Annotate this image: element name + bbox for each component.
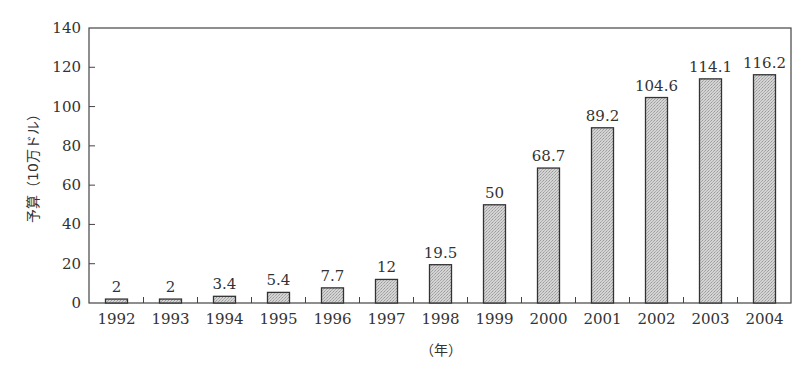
y-tick-label: 60	[62, 176, 81, 194]
bar-chart: 020406080100120140 199219931994199519961…	[0, 0, 808, 381]
bar-2000	[538, 168, 560, 303]
x-axis-title: （年）	[420, 342, 462, 358]
bar-2003	[700, 79, 722, 303]
x-tick-label: 1995	[259, 310, 297, 328]
bar-1994	[214, 296, 236, 303]
bar-2001	[592, 128, 614, 303]
x-tick-label: 1994	[205, 310, 243, 328]
y-tick-label: 20	[62, 255, 81, 273]
bar-value-label: 50	[485, 184, 504, 202]
bar-1997	[376, 279, 398, 303]
bar-1993	[160, 299, 182, 303]
x-tick-label: 2001	[583, 310, 621, 328]
plot-frame	[89, 28, 791, 303]
x-tick-label: 1993	[151, 310, 189, 328]
x-tick-label: 2004	[745, 310, 783, 328]
bars: 223.45.47.71219.55068.789.2104.6114.1116…	[106, 54, 786, 303]
y-tick-label: 140	[52, 19, 81, 37]
bar-1996	[322, 288, 344, 303]
bar-1999	[484, 205, 506, 303]
y-tick-label: 100	[52, 98, 81, 116]
bar-value-label: 2	[166, 278, 176, 296]
y-tick-label: 120	[52, 58, 81, 76]
bar-value-label: 89.2	[586, 107, 619, 125]
x-tick-label: 2002	[637, 310, 675, 328]
x-tick-label: 1997	[367, 310, 405, 328]
bar-value-label: 104.6	[635, 77, 678, 95]
x-tick-label: 2003	[691, 310, 729, 328]
bar-value-label: 5.4	[267, 271, 291, 289]
bar-value-label: 12	[377, 258, 396, 276]
bar-1998	[430, 265, 452, 303]
x-tick-label: 1992	[97, 310, 135, 328]
bar-1995	[268, 292, 290, 303]
bar-value-label: 2	[112, 278, 122, 296]
bar-value-label: 116.2	[743, 54, 786, 72]
bar-value-label: 7.7	[321, 267, 345, 285]
bar-value-label: 19.5	[424, 244, 457, 262]
y-tick-label: 0	[71, 294, 81, 312]
bar-2004	[754, 75, 776, 303]
y-tick-label: 40	[62, 215, 81, 233]
y-axis-title: 予算（10万ドル）	[25, 107, 41, 223]
bar-value-label: 114.1	[689, 58, 732, 76]
bar-2002	[646, 98, 668, 303]
bar-value-label: 3.4	[213, 275, 237, 293]
x-tick-label: 1998	[421, 310, 459, 328]
bar-1992	[106, 299, 128, 303]
bar-value-label: 68.7	[532, 147, 565, 165]
x-tick-label: 2000	[529, 310, 567, 328]
x-tick-label: 1996	[313, 310, 351, 328]
y-tick-label: 80	[62, 137, 81, 155]
x-tick-label: 1999	[475, 310, 513, 328]
